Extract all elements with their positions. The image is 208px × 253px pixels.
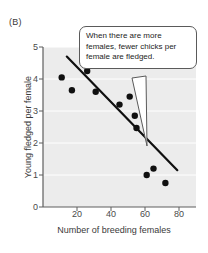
x-tick-label: 60	[135, 210, 155, 219]
x-tick-label: 80	[169, 210, 189, 219]
x-tick-label: 40	[101, 210, 121, 219]
y-axis-title: Young fledged per female	[23, 47, 33, 207]
figure-panel-b: (B) 012345 20406080 Young fledged per fe…	[0, 0, 208, 253]
x-axis-tick-labels: 20406080	[0, 210, 208, 222]
callout-box: When there are more females, fewer chick…	[79, 26, 197, 69]
plot-background	[43, 47, 196, 207]
x-axis-title: Number of breeding females	[26, 225, 202, 235]
callout-text: When there are more females, fewer chick…	[86, 31, 191, 63]
x-tick-label: 20	[67, 210, 87, 219]
